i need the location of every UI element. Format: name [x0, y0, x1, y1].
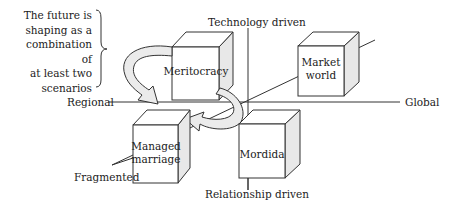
- axis-label-bottom: Relationship driven: [205, 188, 309, 201]
- axis-label-right: Global: [405, 96, 439, 109]
- scenario-label-mordida: Mordida: [239, 148, 285, 161]
- fragmented-leader: [112, 158, 133, 165]
- scenario-note: The future is shaping as a combination o…: [18, 8, 92, 95]
- note-line: The future is: [18, 8, 92, 23]
- axis-label-left: Regional: [67, 96, 114, 109]
- note-line: combination of: [18, 37, 92, 66]
- scenario-label-market-world: Market world: [298, 56, 344, 82]
- note-line: at least two: [18, 66, 92, 81]
- axis-label-top: Technology driven: [208, 16, 306, 29]
- brace-icon: [96, 10, 107, 87]
- cube-mordida: [239, 110, 300, 178]
- scenario-label-managed-marriage: Managed marriage: [131, 140, 181, 166]
- note-line: shaping as a: [18, 23, 92, 38]
- axis-label-fragmented: Fragmented: [74, 171, 139, 184]
- note-line: scenarios: [18, 81, 92, 96]
- scenario-label-meritocracy: Meritocracy: [160, 65, 232, 78]
